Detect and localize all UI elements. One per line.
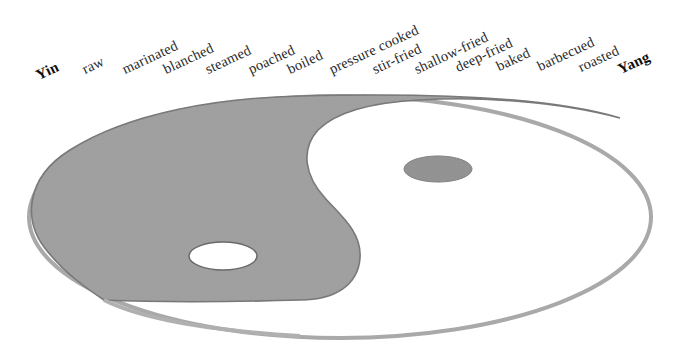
yang-eye [404,156,472,182]
yin-eye [189,242,257,270]
